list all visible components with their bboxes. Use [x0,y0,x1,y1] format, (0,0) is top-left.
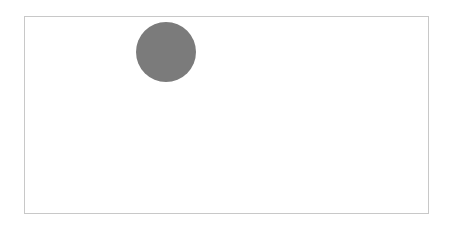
canvas-frame [24,16,429,214]
gray-circle [136,22,196,82]
